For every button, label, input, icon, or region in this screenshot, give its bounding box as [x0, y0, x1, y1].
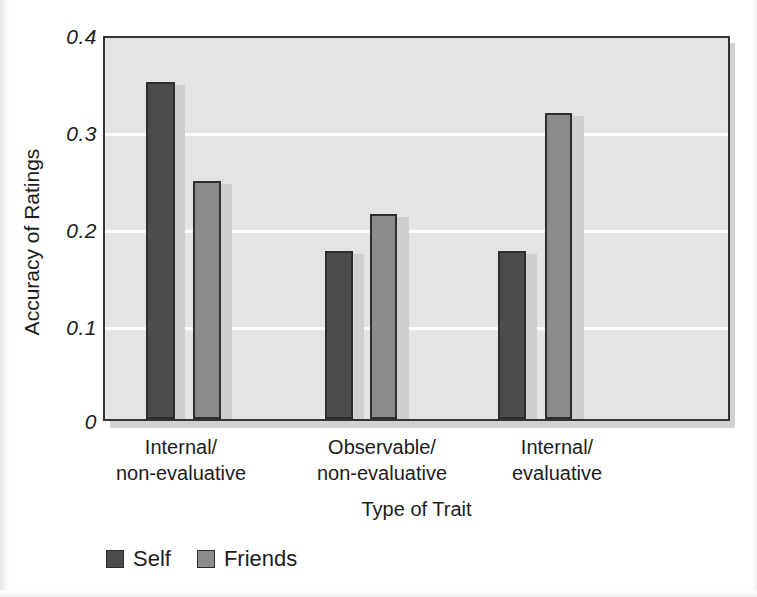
y-tick-0.4: 0.4 [7, 25, 97, 49]
bar-self-observable-nonevaluative [325, 251, 353, 419]
x-tick-line-1: Internal/ [442, 434, 672, 460]
legend-label-self: Self [133, 546, 171, 572]
x-tick-line-2: non-evaluative [66, 460, 296, 486]
gridline-0.3 [105, 133, 728, 136]
bar-friends-observable-nonevaluative [370, 214, 397, 419]
bar-friends-internal-nonevaluative [193, 181, 221, 419]
y-tick-0: 0 [7, 410, 97, 434]
x-axis-title: Type of Trait [103, 498, 730, 521]
y-axis-title: Accuracy of Ratings [20, 112, 44, 372]
bar-friends-internal-evaluative [545, 113, 572, 419]
x-tick-internal-nonevaluative: Internal/ non-evaluative [66, 434, 296, 486]
plot-area [103, 36, 730, 421]
chart-legend: Self Friends [106, 546, 297, 572]
y-axis-ticks: 0.4 0.3 0.2 0.1 0 [0, 0, 97, 597]
legend-label-friends: Friends [224, 546, 297, 572]
page-edge-bottom [0, 590, 757, 597]
chart-figure: 0.4 0.3 0.2 0.1 0 Accuracy of Ratings In… [0, 0, 757, 597]
legend-swatch-self-icon [106, 550, 124, 568]
legend-swatch-friends-icon [197, 550, 215, 568]
bar-self-internal-nonevaluative [146, 82, 175, 419]
x-tick-line-2: evaluative [442, 460, 672, 486]
legend-item-self: Self [106, 546, 171, 572]
bar-self-internal-evaluative [498, 251, 526, 419]
x-tick-internal-evaluative: Internal/ evaluative [442, 434, 672, 486]
legend-item-friends: Friends [197, 546, 297, 572]
page-edge-right [751, 0, 757, 597]
x-tick-line-1: Internal/ [66, 434, 296, 460]
